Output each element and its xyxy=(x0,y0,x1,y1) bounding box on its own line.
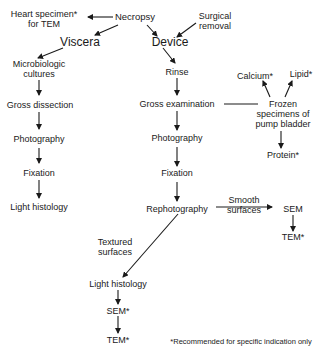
node-device: Device xyxy=(143,36,197,49)
micro-cultures-line2: cultures xyxy=(2,69,76,79)
textured-line1: Textured xyxy=(92,237,138,247)
node-necropsy: Necropsy xyxy=(113,12,157,22)
node-rinse: Rinse xyxy=(152,67,202,77)
node-gross-dissection: Gross dissection xyxy=(2,100,78,110)
flowchart-canvas: Heart specimen* for TEM Necropsy Surgica… xyxy=(0,0,321,358)
node-gross-examination: Gross examination xyxy=(130,99,224,109)
node-frozen-specimens: Frozen specimens of pump bladder xyxy=(250,99,316,129)
textured-line2: surfaces xyxy=(92,247,138,257)
footnote: *Recommended for specific indication onl… xyxy=(163,337,319,347)
frozen-line2: specimens of xyxy=(250,109,316,119)
node-bottom-sem: SEM* xyxy=(100,306,136,316)
node-rephotography: Rephotography xyxy=(140,204,214,214)
connector-arrows xyxy=(0,0,321,358)
node-left-fixation: Fixation xyxy=(4,168,74,178)
surgical-removal-line1: Surgical xyxy=(195,11,235,21)
node-heart-specimen: Heart specimen* for TEM xyxy=(4,9,84,29)
node-bottom-tem: TEM* xyxy=(100,335,136,345)
node-left-light-histology: Light histology xyxy=(2,202,76,212)
frozen-line1: Frozen xyxy=(250,99,316,109)
node-center-fixation: Fixation xyxy=(142,168,212,178)
smooth-line2: surfaces xyxy=(224,205,264,215)
node-surgical-removal: Surgical removal xyxy=(195,11,235,31)
micro-cultures-line1: Microbiologic xyxy=(2,59,76,69)
node-calcium: Calcium* xyxy=(233,71,277,81)
node-lipid: Lipid* xyxy=(283,69,319,79)
heart-specimen-line2: for TEM xyxy=(4,19,84,29)
node-viscera: Viscera xyxy=(52,36,108,49)
node-center-photography: Photography xyxy=(142,133,212,143)
node-right-tem: TEM* xyxy=(276,232,310,242)
node-protein: Protein* xyxy=(258,150,308,160)
heart-specimen-line1: Heart specimen* xyxy=(4,9,84,19)
node-bottom-light-histology: Light histology xyxy=(82,279,154,289)
smooth-line1: Smooth xyxy=(224,195,264,205)
node-right-sem: SEM xyxy=(278,204,308,214)
label-textured-surfaces: Textured surfaces xyxy=(92,237,138,257)
node-microbiologic-cultures: Microbiologic cultures xyxy=(2,59,76,79)
label-smooth-surfaces: Smooth surfaces xyxy=(224,195,264,215)
surgical-removal-line2: removal xyxy=(195,21,235,31)
node-left-photography: Photography xyxy=(4,134,74,144)
frozen-line3: pump bladder xyxy=(250,119,316,129)
